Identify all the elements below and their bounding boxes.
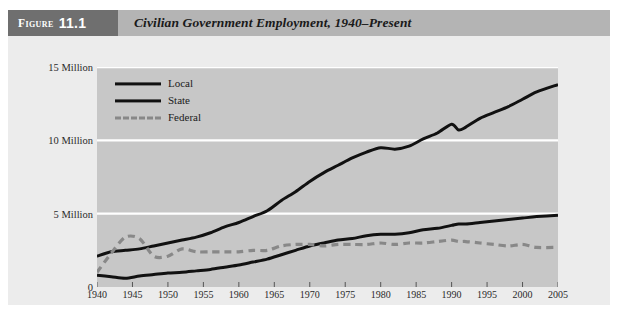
chart-legend: LocalStateFederal xyxy=(115,75,265,126)
x-tick-label: 1960 xyxy=(229,289,249,300)
legend-item-local: Local xyxy=(115,75,265,92)
series-line-state xyxy=(97,215,558,278)
x-tick-label: 1970 xyxy=(300,289,320,300)
legend-swatch-local-icon xyxy=(115,78,161,90)
legend-swatch-line xyxy=(115,116,161,119)
x-tick-label: 1950 xyxy=(158,289,178,300)
x-tick-label: 1980 xyxy=(371,289,391,300)
x-tick-label: 1990 xyxy=(442,289,462,300)
figure-header: Figure 11.1 Civilian Government Employme… xyxy=(8,10,610,36)
figure-card: Figure 11.1 Civilian Government Employme… xyxy=(8,10,610,305)
x-axis: 1940194519501955196019651970197519801985… xyxy=(97,289,558,307)
chart-region: 15 Million10 Million5 Million0 LocalStat… xyxy=(8,36,610,305)
legend-swatch-federal-icon xyxy=(115,112,161,124)
figure-number-box: Figure 11.1 xyxy=(8,10,118,36)
y-axis: 15 Million10 Million5 Million0 xyxy=(8,67,93,287)
x-tick-label: 1995 xyxy=(477,289,497,300)
x-tick-label: 1945 xyxy=(122,289,142,300)
x-tick-label: 2000 xyxy=(513,289,533,300)
figure-label: Figure xyxy=(18,17,54,29)
x-tick-label: 1975 xyxy=(335,289,355,300)
plot-area: LocalStateFederal xyxy=(97,67,558,287)
legend-label: Local xyxy=(168,78,193,89)
x-tick-label: 1965 xyxy=(264,289,284,300)
x-tick-label: 2005 xyxy=(548,289,568,300)
x-axis-ticks xyxy=(97,282,558,287)
figure-number: 11.1 xyxy=(59,15,87,31)
legend-swatch-line xyxy=(115,82,161,85)
figure-title: Civilian Government Employment, 1940–Pre… xyxy=(134,15,411,31)
x-tick-label: 1940 xyxy=(87,289,107,300)
x-tick-label: 1955 xyxy=(193,289,213,300)
y-tick-label: 10 Million xyxy=(9,135,93,146)
legend-swatch-state-icon xyxy=(115,95,161,107)
y-tick-label: 0 xyxy=(9,282,93,293)
legend-swatch-line xyxy=(115,99,161,102)
y-tick-label: 15 Million xyxy=(9,62,93,73)
legend-label: Federal xyxy=(168,112,201,123)
legend-label: State xyxy=(168,95,190,106)
legend-item-state: State xyxy=(115,92,265,109)
x-tick-label: 1985 xyxy=(406,289,426,300)
figure-title-band: Civilian Government Employment, 1940–Pre… xyxy=(118,10,610,36)
legend-item-federal: Federal xyxy=(115,109,265,126)
y-tick-label: 5 Million xyxy=(9,208,93,219)
